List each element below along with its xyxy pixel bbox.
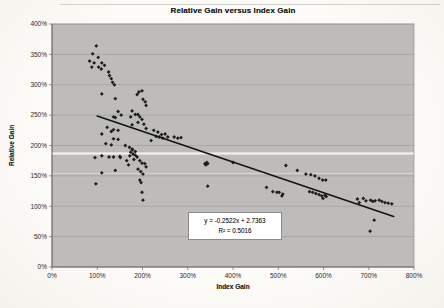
y-tick-label: 150% bbox=[30, 172, 47, 179]
trendline-equation-text: y = -0.2522x + 2.7363 bbox=[204, 216, 265, 226]
y-tick-label: 400% bbox=[30, 20, 47, 27]
y-tick-label: 300% bbox=[30, 81, 47, 88]
y-tick-label: 250% bbox=[30, 111, 47, 118]
x-tick-label: 300% bbox=[179, 272, 196, 279]
scan-artifact-band bbox=[53, 152, 414, 154]
plot-area: 0%50%100%150%200%250%300%350%400%0%100%2… bbox=[0, 0, 444, 308]
x-tick-label: 700% bbox=[360, 272, 377, 279]
y-tick-label: 0% bbox=[38, 263, 48, 270]
x-tick-label: 500% bbox=[270, 272, 287, 279]
x-tick-label: 800% bbox=[406, 272, 423, 279]
x-axis-title: Index Gain bbox=[52, 283, 414, 290]
scan-artifact-band-faint bbox=[53, 173, 414, 174]
x-tick-label: 100% bbox=[89, 272, 106, 279]
y-tick-label: 200% bbox=[30, 142, 47, 149]
x-tick-label: 400% bbox=[225, 272, 242, 279]
x-tick-label: 0% bbox=[47, 272, 57, 279]
y-tick-label: 100% bbox=[30, 203, 47, 210]
trendline-equation-box: y = -0.2522x + 2.7363 R² = 0.5016 bbox=[188, 212, 282, 240]
y-tick-label: 50% bbox=[34, 233, 47, 240]
y-tick-label: 350% bbox=[30, 51, 47, 58]
x-tick-label: 200% bbox=[134, 272, 151, 279]
x-tick-label: 600% bbox=[315, 272, 332, 279]
trendline-r-squared-text: R² = 0.5016 bbox=[218, 226, 251, 236]
chart-image: Relative Gain versus Index Gain Relative… bbox=[0, 0, 444, 308]
